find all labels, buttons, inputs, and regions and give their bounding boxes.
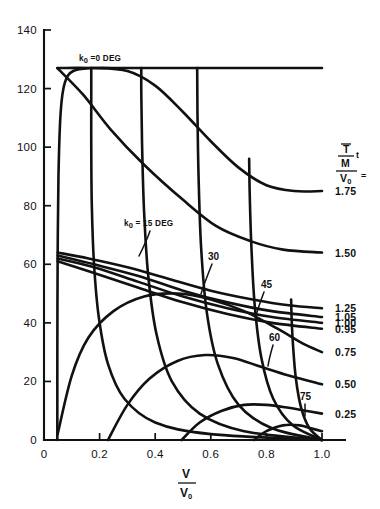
angle-30-label: 30: [208, 251, 220, 262]
x-tick-label-0.6: 0.6: [202, 448, 219, 460]
x-axis-title-numerator: V: [182, 467, 190, 481]
formula-t-factor: t: [356, 150, 359, 160]
y-tick-label-0: 0: [30, 434, 37, 446]
x-tick-label-0.2: 0.2: [91, 448, 108, 460]
curve-value-label-1.75: 1.75: [335, 185, 356, 197]
curve-value-label-1.50: 1.50: [335, 247, 356, 259]
curve-value-label-0.50: 0.50: [335, 378, 356, 390]
formula-numerator-top: T: [343, 143, 350, 155]
y-tick-label-120: 120: [17, 83, 37, 95]
angle-45-label: 45: [261, 279, 273, 290]
y-tick-label-100: 100: [17, 141, 37, 153]
chart-figure: 020406080100120140 00.20.40.60.81.0 1.75…: [0, 0, 380, 509]
y-tick-label-20: 20: [24, 375, 37, 387]
y-tick-label-40: 40: [24, 317, 37, 329]
angle-60-label: 60: [269, 332, 281, 343]
y-tick-label-80: 80: [24, 200, 37, 212]
x-tick-label-1.0: 1.0: [314, 448, 331, 460]
nomogram-svg: 020406080100120140 00.20.40.60.81.0 1.75…: [0, 0, 380, 509]
y-tick-label-60: 60: [24, 258, 37, 270]
curve-value-label-0.95: 0.95: [335, 323, 356, 335]
x-tick-label-0.4: 0.4: [147, 448, 164, 460]
formula-equals: =: [361, 171, 366, 181]
y-tick-label-140: 140: [17, 24, 37, 36]
curve-value-label-0.75: 0.75: [335, 346, 356, 358]
formula-numerator-bottom: M: [341, 157, 350, 169]
curve-value-label-0.25: 0.25: [335, 408, 356, 420]
x-tick-label-0: 0: [41, 448, 48, 460]
x-tick-label-0.8: 0.8: [258, 448, 275, 460]
angle-75-label: 75: [300, 391, 312, 402]
